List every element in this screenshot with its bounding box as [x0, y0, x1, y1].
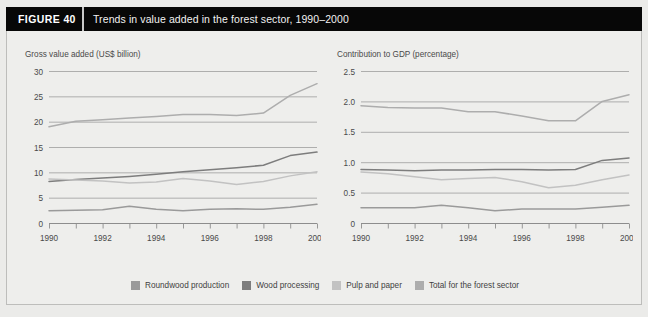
figure-title-bar: FIGURE 40 Trends in value added in the f…	[6, 7, 642, 31]
series-line	[49, 84, 317, 127]
legend-label: Wood processing	[256, 281, 319, 290]
plot-area-contribution-to-gdp: 00.51.01.52.02.5199019921994199619982000	[337, 65, 633, 253]
y-axis-tick-label: 2.5	[344, 68, 356, 77]
legend-label: Total for the forest sector	[429, 281, 519, 290]
figure-number: FIGURE 40	[6, 13, 82, 25]
series-line	[361, 95, 629, 121]
legend-swatch-roundwood	[131, 281, 140, 290]
legend-label: Pulp and paper	[346, 281, 402, 290]
chart-svg: 00.51.01.52.02.5199019921994199619982000	[337, 65, 633, 253]
legend-swatch-wood-processing	[242, 281, 251, 290]
y-axis-tick-label: 5	[38, 194, 43, 203]
title-divider	[82, 7, 84, 31]
x-axis-tick-label: 2000	[620, 234, 633, 243]
y-axis-tick-label: 0	[350, 220, 355, 229]
legend-swatch-total	[415, 281, 424, 290]
series-line	[49, 152, 317, 181]
y-axis-tick-label: 10	[34, 169, 44, 178]
x-axis-tick-label: 1994	[147, 234, 166, 243]
y-axis-tick-label: 1.5	[344, 128, 356, 137]
series-line	[361, 158, 629, 171]
chart-axis-title: Contribution to GDP (percentage)	[337, 50, 459, 59]
x-axis-tick-label: 1990	[352, 234, 371, 243]
series-line	[49, 204, 317, 211]
legend-item: Pulp and paper	[332, 281, 402, 290]
y-axis-tick-label: 20	[34, 118, 44, 127]
x-axis-tick-label: 1994	[459, 234, 478, 243]
x-axis-tick-label: 1996	[513, 234, 532, 243]
figure-body-panel: Gross value added (US$ billion) 05101520…	[6, 31, 642, 305]
x-axis-tick-label: 1992	[405, 234, 424, 243]
series-line	[361, 172, 629, 188]
series-line	[361, 205, 629, 210]
y-axis-tick-label: 30	[34, 68, 44, 77]
y-axis-tick-label: 25	[34, 93, 44, 102]
figure-root: FIGURE 40 Trends in value added in the f…	[0, 0, 648, 317]
charts-container: Gross value added (US$ billion) 05101520…	[7, 31, 643, 271]
y-axis-tick-label: 2.0	[344, 98, 356, 107]
figure-caption: Trends in value added in the forest sect…	[93, 13, 349, 25]
y-axis-tick-label: 1.0	[344, 159, 356, 168]
legend-swatch-pulp-and-paper	[332, 281, 341, 290]
plot-area-gross-value-added: 051015202530199019921994199619982000	[25, 65, 321, 253]
legend-item: Wood processing	[242, 281, 319, 290]
x-axis-tick-label: 1998	[566, 234, 585, 243]
x-axis-tick-label: 2000	[308, 234, 321, 243]
x-axis-tick-label: 1990	[40, 234, 59, 243]
chart-gross-value-added: Gross value added (US$ billion) 05101520…	[15, 31, 327, 271]
y-axis-tick-label: 0.5	[344, 189, 356, 198]
x-axis-tick-label: 1998	[254, 234, 273, 243]
y-axis-tick-label: 0	[38, 220, 43, 229]
legend-label: Roundwood production	[145, 281, 229, 290]
legend-item: Roundwood production	[131, 281, 229, 290]
chart-contribution-to-gdp: Contribution to GDP (percentage) 00.51.0…	[327, 31, 639, 271]
chart-svg: 051015202530199019921994199619982000	[25, 65, 321, 253]
legend-item: Total for the forest sector	[415, 281, 519, 290]
chart-axis-title: Gross value added (US$ billion)	[25, 50, 141, 59]
x-axis-tick-label: 1992	[93, 234, 112, 243]
chart-legend: Roundwood production Wood processing Pul…	[7, 274, 643, 296]
y-axis-tick-label: 15	[34, 144, 44, 153]
x-axis-tick-label: 1996	[201, 234, 220, 243]
